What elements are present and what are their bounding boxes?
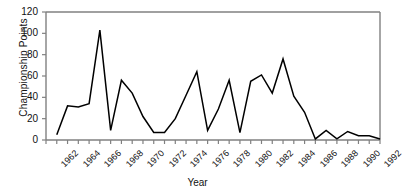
y-tick-label: 120 bbox=[4, 7, 38, 17]
y-tick-label: 0 bbox=[4, 135, 38, 145]
y-tick-label: 40 bbox=[4, 92, 38, 102]
y-tick-label: 60 bbox=[4, 71, 38, 81]
y-tick-label: 80 bbox=[4, 50, 38, 60]
y-tick-label: 20 bbox=[4, 114, 38, 124]
y-tick-label: 100 bbox=[4, 28, 38, 38]
